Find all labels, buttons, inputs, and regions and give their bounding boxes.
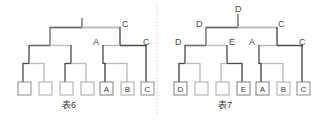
node-label-d-root: D — [235, 4, 242, 14]
leaf-box-r3 — [216, 82, 229, 95]
left-tree-caption: 表6 — [62, 98, 76, 111]
left-leaf-boxes — [18, 82, 154, 95]
leaf-box-2 — [39, 82, 52, 95]
leaf-box-3 — [60, 82, 73, 95]
node-label-c-lower-r: C — [299, 37, 306, 47]
leaf-box-1 — [18, 82, 31, 95]
leaf-label-ra: A — [260, 85, 266, 94]
node-label-e: E — [229, 37, 235, 47]
leaf-label-a: A — [104, 85, 110, 94]
node-label-a: A — [93, 37, 99, 47]
leaf-label-c: C — [145, 85, 151, 94]
right-tree-caption: 表7 — [218, 98, 232, 111]
leaf-box-r2 — [195, 82, 208, 95]
leaf-box-4 — [81, 82, 94, 95]
leaf-label-rb: B — [281, 85, 286, 94]
node-label-c-lower: C — [143, 37, 150, 47]
leaf-label-b: B — [125, 85, 130, 94]
node-label-d-level3: D — [175, 37, 182, 47]
diagram-canvas: C A C D D C D E A C A B C D E A B C 表6 表… — [0, 0, 316, 120]
left-tree-graphic: C A C D D C D E A C A B C D E A B C — [0, 0, 316, 120]
node-label-d-level2: D — [196, 19, 203, 29]
node-label-a-r: A — [249, 37, 255, 47]
leaf-label-e: E — [241, 85, 246, 94]
node-label-c-upper: C — [122, 19, 129, 29]
leaf-label-d: D — [178, 85, 184, 94]
node-label-c-upper-r: C — [278, 19, 285, 29]
leaf-label-rc: C — [301, 85, 307, 94]
